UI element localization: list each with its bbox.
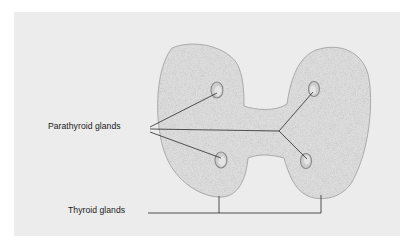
parathyroid-glands-label: Parathyroid glands (48, 121, 121, 131)
thyroid-stipple (158, 44, 371, 199)
parathyroid-upper-left-highlight (215, 86, 222, 96)
thyroid-glands-label: Thyroid glands (68, 205, 125, 215)
thyroid-bracket (148, 195, 321, 213)
parathyroid-upper-right-highlight (310, 86, 316, 95)
thyroid-gland (158, 44, 371, 199)
